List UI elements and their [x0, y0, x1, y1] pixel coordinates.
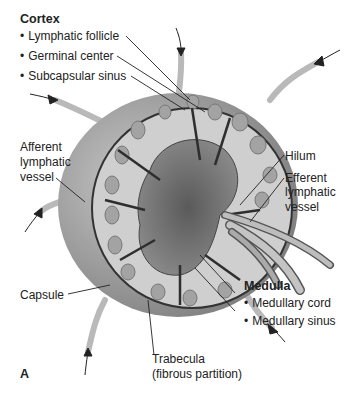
- label-afferent-2: lymphatic: [20, 155, 71, 169]
- label-efferent-3: vessel: [285, 200, 319, 214]
- label-trabecula-1: Trabecula: [152, 352, 205, 366]
- label-germinal-center: Germinal center: [20, 49, 114, 63]
- label-efferent-2: lymphatic: [285, 185, 336, 199]
- label-medullary-sinus: Medullary sinus: [244, 314, 336, 328]
- label-efferent-1: Efferent: [285, 171, 327, 185]
- label-capsule: Capsule: [20, 288, 64, 302]
- label-subcapsular-sinus: Subcapsular sinus: [20, 69, 126, 83]
- label-lymphatic-follicle: Lymphatic follicle: [20, 29, 119, 43]
- cortex-heading: Cortex: [20, 12, 60, 26]
- panel-label: A: [20, 367, 29, 381]
- label-hilum: Hilum: [285, 149, 316, 163]
- afferent-vessel: [178, 52, 181, 100]
- afferent-vessel: [88, 300, 105, 352]
- afferent-vessel: [270, 62, 318, 100]
- medulla-heading: Medulla: [244, 279, 291, 293]
- label-trabecula-2: (fibrous partition): [152, 367, 242, 381]
- label-afferent-3: vessel: [20, 170, 54, 184]
- label-afferent-1: Afferent: [20, 140, 62, 154]
- label-medullary-cord: Medullary cord: [244, 296, 331, 310]
- arrow-icon: [34, 208, 42, 218]
